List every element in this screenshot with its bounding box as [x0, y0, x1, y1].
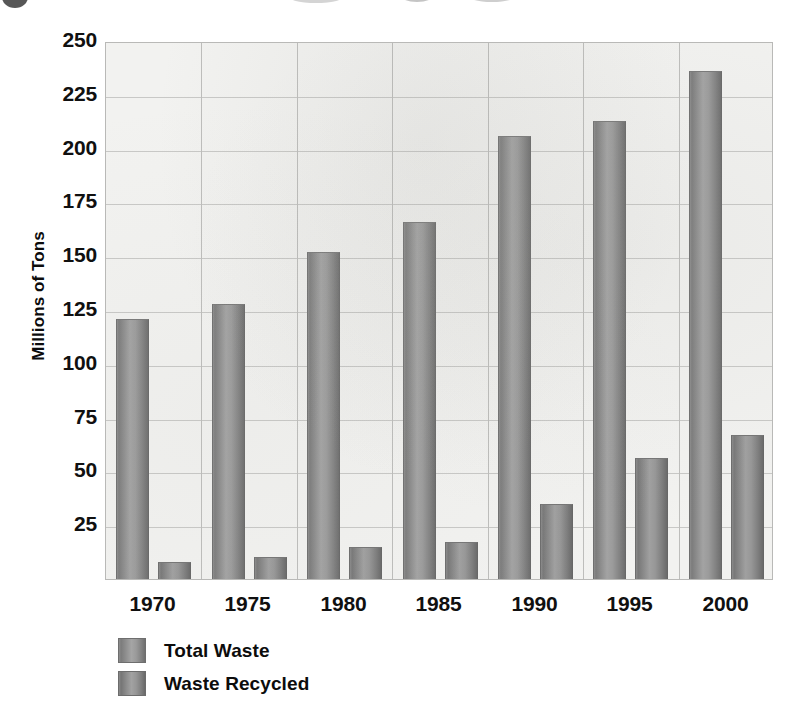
legend-item-total-waste: Total Waste [118, 634, 309, 667]
x-tick-label-2000: 2000 [678, 592, 773, 616]
bar-chart-figure: Millions of Tons 25022520017515012510075… [0, 0, 796, 724]
y-tick-label-225: 225 [5, 82, 97, 106]
y-tick-label-25: 25 [5, 512, 97, 536]
bar-1990-total-waste [498, 136, 531, 579]
gridline-y-225 [106, 97, 772, 98]
y-tick-label-250: 250 [5, 28, 97, 52]
x-axis-tick-labels: 1970197519801985199019952000 [105, 592, 773, 624]
y-tick-label-200: 200 [5, 136, 97, 160]
gridline-y-25 [106, 527, 772, 528]
x-tick-label-1990: 1990 [487, 592, 582, 616]
gridline-y-175 [106, 204, 772, 205]
x-tick-label-1995: 1995 [582, 592, 677, 616]
gridline-y-100 [106, 366, 772, 367]
legend-item-waste-recycled: Waste Recycled [118, 667, 309, 700]
legend-swatch-waste-recycled [118, 671, 146, 696]
x-tick-label-1985: 1985 [391, 592, 486, 616]
gridline-x-1975 [201, 43, 202, 579]
bar-1975-total-waste [212, 304, 245, 579]
bar-1980-waste-recycled [349, 547, 382, 579]
gridline-x-1985 [392, 43, 393, 579]
y-tick-label-50: 50 [5, 458, 97, 482]
bar-1970-total-waste [116, 319, 149, 579]
x-tick-label-1970: 1970 [105, 592, 200, 616]
bar-1985-total-waste [403, 222, 436, 579]
gridline-y-200 [106, 151, 772, 152]
bar-2000-waste-recycled [731, 435, 764, 579]
gridline-y-50 [106, 473, 772, 474]
gridline-y-150 [106, 258, 772, 259]
legend-swatch-total-waste [118, 638, 146, 663]
bar-1970-waste-recycled [158, 562, 191, 579]
bar-1985-waste-recycled [445, 542, 478, 579]
chart-legend: Total Waste Waste Recycled [118, 634, 309, 700]
y-axis-tick-labels: 250225200175150125100755025 [0, 0, 97, 724]
legend-label-waste-recycled: Waste Recycled [164, 673, 309, 695]
y-tick-label-175: 175 [5, 189, 97, 213]
bar-1975-waste-recycled [254, 557, 287, 579]
y-tick-label-100: 100 [5, 351, 97, 375]
bar-1995-total-waste [593, 121, 626, 579]
gridline-y-75 [106, 420, 772, 421]
gridline-y-125 [106, 312, 772, 313]
gridline-x-2000 [679, 43, 680, 579]
bar-2000-total-waste [689, 71, 722, 579]
x-tick-label-1975: 1975 [200, 592, 295, 616]
y-tick-label-150: 150 [5, 243, 97, 267]
y-tick-label-125: 125 [5, 297, 97, 321]
bar-1990-waste-recycled [540, 504, 573, 579]
gridline-x-1980 [297, 43, 298, 579]
y-tick-label-75: 75 [5, 405, 97, 429]
bar-1980-total-waste [307, 252, 340, 579]
x-tick-label-1980: 1980 [296, 592, 391, 616]
gridline-x-1995 [583, 43, 584, 579]
plot-area [105, 42, 773, 580]
gridline-x-1990 [488, 43, 489, 579]
legend-label-total-waste: Total Waste [164, 640, 270, 662]
bar-1995-waste-recycled [635, 458, 668, 579]
